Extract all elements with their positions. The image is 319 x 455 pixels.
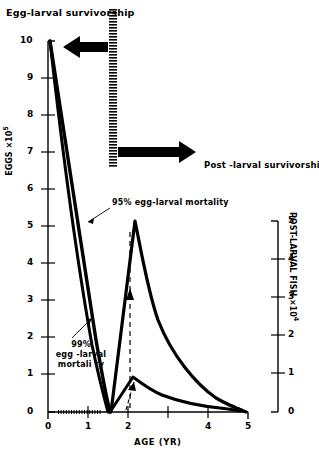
- left-ytick-7: 7: [27, 146, 33, 156]
- annotation-99-mortality: 99% egg -larval mortali ty: [46, 340, 116, 370]
- xtick-1: 1: [85, 421, 91, 431]
- left-ytick-2: 2: [27, 331, 33, 341]
- left-y-axis-label-exponent: 5: [2, 126, 10, 131]
- left-ytick-1: 1: [27, 368, 33, 378]
- right-arrow-icon: [118, 141, 196, 163]
- left-ytick-3: 3: [27, 294, 33, 304]
- dashed-up-arrow-icon: [126, 228, 134, 408]
- right-y-axis: [271, 221, 285, 412]
- annotation-95-mortality: 95% egg-larval mortality: [112, 198, 229, 207]
- x-axis-label: AGE (YR): [134, 437, 182, 447]
- annotation-99-line1: 99%: [71, 340, 91, 349]
- left-ytick-4: 4: [27, 257, 33, 267]
- left-ytick-8: 8: [27, 109, 33, 119]
- annotation-99-line2: egg -larval: [56, 350, 107, 359]
- chart-canvas: [0, 0, 319, 455]
- right-ytick-3: 3: [288, 291, 294, 301]
- right-ytick-1: 1: [288, 367, 294, 377]
- right-ytick-2: 2: [288, 329, 294, 339]
- egg-larval-survivorship-title: Egg-larval survivorship: [6, 7, 135, 18]
- survivorship-chart: Egg-larval survivorship Post -larval sur…: [0, 0, 319, 455]
- xtick-4: 4: [205, 421, 211, 431]
- left-y-axis-label-text: EGGS ×10: [5, 131, 14, 176]
- right-y-axis-label-text: POST-LARVAL FISH ×10: [288, 212, 297, 317]
- left-ytick-5: 5: [27, 220, 33, 230]
- hatched-vertical-band: [109, 8, 117, 168]
- right-ytick-4: 4: [288, 253, 294, 263]
- post-larval-survivorship-title: Post -larval survivorship: [204, 160, 319, 170]
- left-ytick-0: 0: [27, 406, 33, 416]
- curve-post-larval-95: [111, 221, 246, 412]
- x-axis-stipple: [54, 410, 102, 454]
- xtick-5: 5: [245, 421, 251, 431]
- left-ytick-6: 6: [27, 183, 33, 193]
- right-y-axis-label-exponent: 4: [292, 317, 300, 322]
- left-arrow-icon: [63, 36, 108, 58]
- annotation-99-line3: mortali ty: [58, 360, 104, 369]
- left-y-axis-label: EGGS ×105: [2, 116, 14, 186]
- xtick-0: 0: [45, 421, 51, 431]
- right-y-axis-label: POST-LARVAL FISH ×104: [288, 212, 300, 362]
- xtick-2: 2: [125, 421, 131, 431]
- left-ytick-9: 9: [27, 72, 33, 82]
- right-ytick-0: 0: [288, 406, 294, 416]
- right-ytick-5: 5: [288, 215, 294, 225]
- left-ytick-10: 10: [20, 35, 33, 45]
